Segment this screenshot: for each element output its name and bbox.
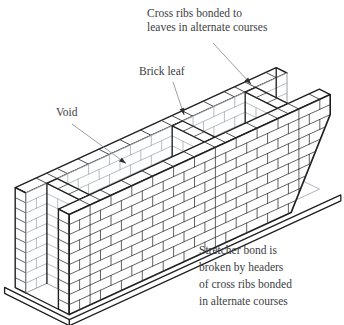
- leader-cross-ribs: [213, 43, 251, 84]
- label-void-line1: Void: [56, 106, 78, 120]
- label-stretcher-bond-note: Stretcher bond is broken by headers of c…: [199, 242, 292, 310]
- figure-diaphragm-wall: Cross ribs bonded to leaves in alternate…: [0, 0, 344, 325]
- wall-isometric-drawing: [0, 0, 344, 325]
- label-brick-leaf-line1: Brick leaf: [139, 65, 185, 79]
- leader-brick-leaf: [173, 82, 184, 115]
- label-stretcher-note-line4: in alternate courses: [199, 293, 292, 310]
- far-leaf-end-face: [15, 188, 26, 293]
- label-stretcher-note-line1: Stretcher bond is: [199, 242, 292, 259]
- label-cross-ribs-line1: Cross ribs bonded to: [147, 7, 267, 21]
- label-void: Void: [56, 106, 78, 120]
- near-leaf-end-face: [58, 209, 69, 314]
- label-cross-ribs: Cross ribs bonded to leaves in alternate…: [147, 7, 267, 34]
- label-brick-leaf: Brick leaf: [139, 65, 185, 79]
- label-stretcher-note-line2: broken by headers: [199, 259, 292, 276]
- label-stretcher-note-line3: of cross ribs bonded: [199, 276, 292, 293]
- label-cross-ribs-line2: leaves in alternate courses: [147, 21, 267, 35]
